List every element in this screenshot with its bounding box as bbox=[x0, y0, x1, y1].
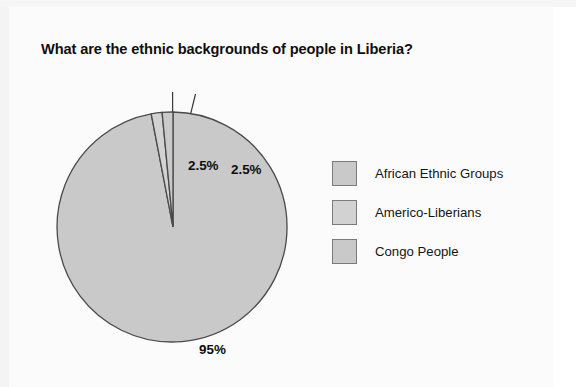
legend-label: African Ethnic Groups bbox=[375, 166, 503, 181]
legend-swatch-icon bbox=[332, 161, 357, 186]
slice-value-label-americo-liberians: 2.5% bbox=[231, 162, 262, 177]
legend-item-congo-people[interactable]: Congo People bbox=[332, 232, 547, 271]
legend-item-americo-liberians[interactable]: Americo-Liberians bbox=[332, 193, 547, 232]
chart-legend: African Ethnic Groups Americo-Liberians … bbox=[332, 154, 547, 271]
slice-value-label-african-ethnic-groups: 95% bbox=[199, 342, 226, 357]
slice-value-label-congo-people: 2.5% bbox=[188, 158, 219, 173]
legend-label: Congo People bbox=[375, 244, 459, 259]
legend-swatch-icon bbox=[332, 239, 357, 264]
figure-top-margin bbox=[0, 0, 576, 7]
legend-item-african-ethnic-groups[interactable]: African Ethnic Groups bbox=[332, 154, 547, 193]
leader-line-americo bbox=[191, 94, 196, 114]
page-title: What are the ethnic backgrounds of peopl… bbox=[41, 41, 511, 57]
legend-label: Americo-Liberians bbox=[375, 205, 481, 220]
pie-chart-figure: What are the ethnic backgrounds of peopl… bbox=[0, 0, 576, 387]
legend-swatch-icon bbox=[332, 200, 357, 225]
figure-left-margin bbox=[0, 0, 9, 387]
pie-svg bbox=[40, 80, 320, 355]
pie-plot-area: 2.5% 2.5% 95% bbox=[40, 80, 320, 355]
